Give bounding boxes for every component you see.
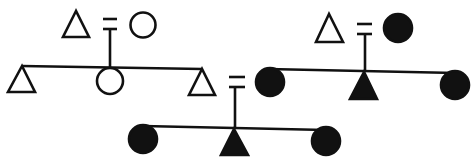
son-right-triangle-icon <box>189 69 215 95</box>
daughter-right-filled-circle-icon <box>441 71 469 99</box>
mother-circle-icon <box>131 13 156 38</box>
daughter-left-filled-circle-icon <box>129 125 157 153</box>
father-triangle-icon <box>316 14 343 42</box>
family-3 <box>129 77 340 155</box>
daughter-right-filled-circle-icon <box>312 127 340 155</box>
father-triangle-icon <box>63 11 89 37</box>
family-2 <box>256 14 469 99</box>
mother-filled-circle-icon <box>384 14 412 42</box>
family-1 <box>8 11 215 95</box>
son-filled-triangle-icon <box>221 129 248 155</box>
sibling-line <box>268 69 456 73</box>
kinship-diagram <box>0 0 474 166</box>
son-left-triangle-icon <box>8 66 35 92</box>
son-filled-triangle-icon <box>350 72 377 99</box>
daughter-left-filled-circle-icon <box>256 68 284 96</box>
daughter-circle-icon <box>97 68 123 94</box>
